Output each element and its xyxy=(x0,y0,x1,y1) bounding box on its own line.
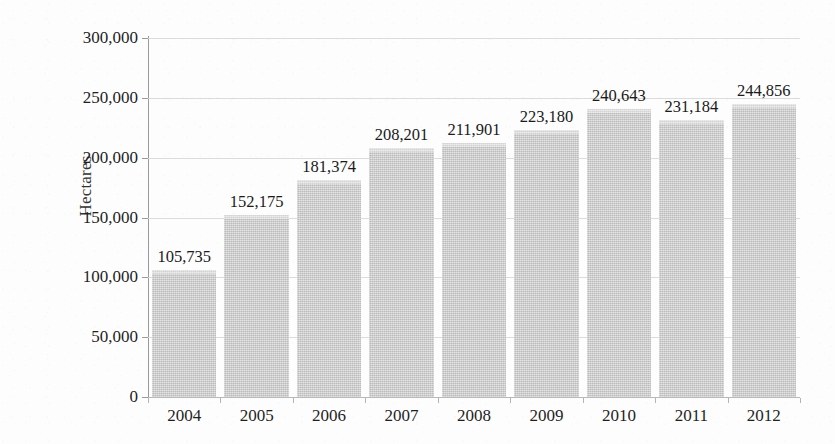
x-axis-tick-label: 2008 xyxy=(438,406,510,426)
bar-top-highlight xyxy=(369,148,433,152)
x-axis-tick-mark xyxy=(148,398,149,403)
y-axis-tick-mark xyxy=(142,158,148,159)
bar[interactable] xyxy=(732,104,796,397)
x-axis-tick-label: 2004 xyxy=(148,406,220,426)
bar-slot: 244,856 xyxy=(728,38,800,397)
x-axis-tick-mark xyxy=(655,398,656,403)
x-axis-tick-mark xyxy=(293,398,294,403)
y-axis-tick-label: 100,000 xyxy=(52,267,138,287)
bar-value-label: 244,856 xyxy=(710,81,818,101)
bar-slot: 240,643 xyxy=(583,38,655,397)
y-axis-tick-label: 150,000 xyxy=(52,208,138,228)
bar-slot: 208,201 xyxy=(365,38,437,397)
x-axis-tick-mark xyxy=(728,398,729,403)
y-axis-tick-label: 250,000 xyxy=(52,88,138,108)
y-axis-tick-mark xyxy=(142,38,148,39)
y-axis-tick-mark xyxy=(142,337,148,338)
x-axis-line xyxy=(148,397,800,398)
y-axis-tick-label: 200,000 xyxy=(52,148,138,168)
bar-top-highlight xyxy=(224,215,288,219)
bar-top-highlight xyxy=(442,143,506,147)
bar-top-highlight xyxy=(659,120,723,124)
bar-slot: 211,901 xyxy=(438,38,510,397)
x-axis-tick-mark xyxy=(583,398,584,403)
bar-top-highlight xyxy=(514,130,578,134)
bar[interactable] xyxy=(587,109,651,397)
y-axis-tick-mark xyxy=(142,98,148,99)
bar[interactable] xyxy=(224,215,288,397)
bar[interactable] xyxy=(659,120,723,397)
x-axis-tick-mark xyxy=(800,398,801,403)
x-axis-tick-label: 2007 xyxy=(365,406,437,426)
y-axis-tick-label: 300,000 xyxy=(52,28,138,48)
bar-top-highlight xyxy=(297,180,361,184)
x-axis-tick-mark xyxy=(220,398,221,403)
x-axis-tick-label: 2011 xyxy=(655,406,727,426)
x-axis-tick-label: 2010 xyxy=(583,406,655,426)
bar-slot: 152,175 xyxy=(220,38,292,397)
x-axis-tick-mark xyxy=(510,398,511,403)
x-axis-tick-label: 2006 xyxy=(293,406,365,426)
bar[interactable] xyxy=(297,180,361,397)
plot-area: 105,735152,175181,374208,201211,901223,1… xyxy=(148,38,800,397)
x-axis-tick-mark xyxy=(438,398,439,403)
x-axis-tick-mark xyxy=(365,398,366,403)
bar-top-highlight xyxy=(732,104,796,108)
y-axis-tick-label: 0 xyxy=(52,387,138,407)
bar[interactable] xyxy=(442,143,506,397)
bar-slot: 181,374 xyxy=(293,38,365,397)
bar-top-highlight xyxy=(152,270,216,274)
x-axis-tick-label: 2005 xyxy=(220,406,292,426)
x-axis-tick-label: 2012 xyxy=(728,406,800,426)
bar[interactable] xyxy=(152,270,216,397)
bar-slot: 105,735 xyxy=(148,38,220,397)
x-axis-tick-label: 2009 xyxy=(510,406,582,426)
y-axis-tick-label: 50,000 xyxy=(52,327,138,347)
y-axis-tick-mark xyxy=(142,218,148,219)
bar-chart: Hectares 050,000100,000150,000200,000250… xyxy=(0,0,835,444)
bar[interactable] xyxy=(514,130,578,397)
bar[interactable] xyxy=(369,148,433,397)
y-axis-tick-mark xyxy=(142,277,148,278)
y-axis-tick-labels: 050,000100,000150,000200,000250,000300,0… xyxy=(44,0,138,444)
